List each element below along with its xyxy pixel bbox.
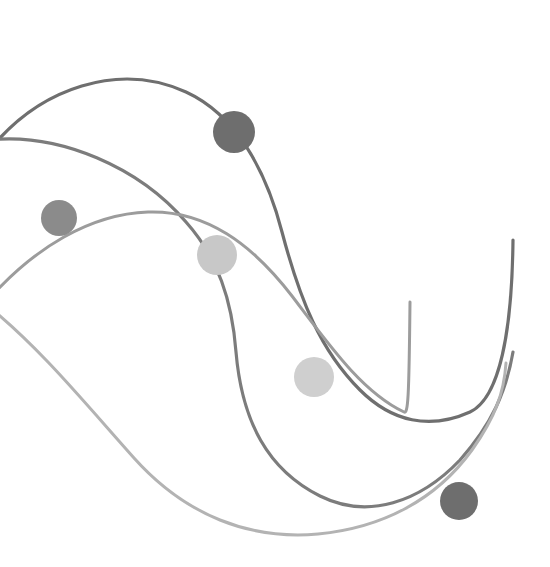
node-light-upper: Light node upper middle bbox=[197, 235, 237, 275]
node-dark-bottom: Dark node bottom right bbox=[440, 482, 478, 520]
artwork-canvas: Abstract Flowing Curves Decorative grays… bbox=[0, 0, 550, 567]
node-light-center: Light node center bbox=[294, 357, 334, 397]
node-mid-left: Medium node on left bbox=[41, 200, 77, 236]
node-dark-top: Dark node on upper arch bbox=[213, 111, 255, 153]
curves-illustration: Upper arching curveDescending S curve th… bbox=[0, 0, 550, 567]
